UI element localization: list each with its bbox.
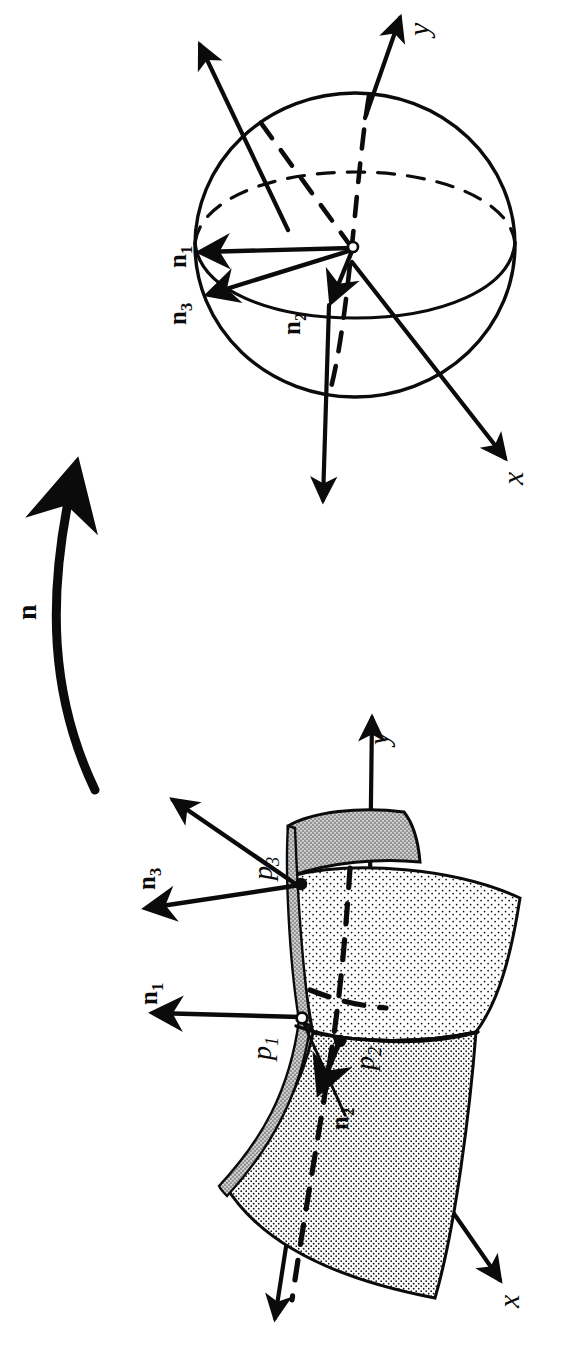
surface-axis-y-label-group: y — [362, 731, 395, 748]
sphere-axis-y-label-group: y — [402, 22, 435, 39]
surface-axis-x-label-group: x — [492, 1294, 525, 1309]
sphere-axis-y-label: y — [402, 22, 435, 39]
surface-axis-y-label: y — [362, 731, 395, 748]
gauss-map-label-group: n — [11, 604, 42, 620]
surface-point-p1-marker — [297, 1013, 308, 1024]
sphere-center-marker — [348, 242, 358, 252]
sphere-axis-x-label: x — [496, 471, 529, 486]
surface-axis-x-label: x — [492, 1294, 525, 1309]
saddle-sheet-upper — [291, 868, 520, 1040]
surface-point-p2-marker — [334, 1035, 346, 1047]
surface-point-p3-marker — [295, 878, 307, 890]
sphere-axis-x-label-group: x — [496, 471, 529, 486]
gauss-map-label: n — [11, 604, 42, 620]
gauss-map-figure: y x n1 n2 n3 n — [0, 0, 563, 1355]
figure-root: y x n1 n2 n3 n — [0, 0, 563, 1355]
